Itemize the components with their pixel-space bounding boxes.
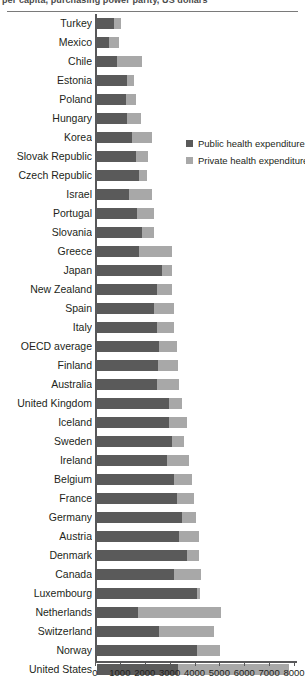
bar-track bbox=[97, 356, 302, 375]
bar-segment-public bbox=[97, 37, 109, 48]
y-axis-spine bbox=[95, 14, 97, 661]
bar-track bbox=[97, 470, 302, 489]
chart-row: Canada bbox=[0, 565, 305, 584]
bar-track bbox=[97, 565, 302, 584]
bar-segment-public bbox=[97, 322, 157, 333]
plot-area: TurkeyMexicoChileEstoniaPolandHungaryKor… bbox=[0, 14, 305, 660]
bar-segment-private bbox=[157, 284, 172, 295]
chart-row: Chile bbox=[0, 52, 305, 71]
bar-segment-public bbox=[97, 113, 127, 124]
category-label: Netherlands bbox=[0, 603, 92, 622]
category-label: Estonia bbox=[0, 71, 92, 90]
bar-segment-private bbox=[157, 379, 179, 390]
bar-segment-private bbox=[117, 56, 142, 67]
page-title: per capita, purchasing power parity, US … bbox=[2, 0, 208, 5]
chart-row: Slovania bbox=[0, 223, 305, 242]
bar-segment-public bbox=[97, 56, 117, 67]
category-label: Japan bbox=[0, 261, 92, 280]
bar-track bbox=[97, 527, 302, 546]
bar-segment-public bbox=[97, 626, 159, 637]
bar-segment-public bbox=[97, 284, 157, 295]
chart-row: Turkey bbox=[0, 14, 305, 33]
bar-segment-private bbox=[129, 189, 151, 200]
category-label: Poland bbox=[0, 90, 92, 109]
bar-track bbox=[97, 223, 302, 242]
x-axis-tick-label: 8000 bbox=[283, 667, 304, 678]
bar-segment-public bbox=[97, 94, 126, 105]
category-label: New Zealand bbox=[0, 280, 92, 299]
legend-label: Public health expenditure bbox=[198, 138, 305, 149]
chart-row: United Kingdom bbox=[0, 394, 305, 413]
bar-segment-private bbox=[159, 626, 214, 637]
bar-track bbox=[97, 622, 302, 641]
bar-segment-private bbox=[169, 417, 186, 428]
category-label: Luxembourg bbox=[0, 584, 92, 603]
bar-segment-public bbox=[97, 341, 159, 352]
x-axis-tick bbox=[195, 661, 196, 666]
chart-row: Spain bbox=[0, 299, 305, 318]
chart-row: Switzerland bbox=[0, 622, 305, 641]
category-label: Norway bbox=[0, 641, 92, 660]
category-label: Finland bbox=[0, 356, 92, 375]
chart-row: Denmark bbox=[0, 546, 305, 565]
category-label: Czech Republic bbox=[0, 166, 92, 185]
bar-segment-private bbox=[174, 474, 191, 485]
bar-segment-public bbox=[97, 170, 139, 181]
legend-item-public: Public health expenditure bbox=[186, 136, 305, 151]
bar-track bbox=[97, 299, 302, 318]
bar-track bbox=[97, 641, 302, 660]
bar-segment-public bbox=[97, 474, 174, 485]
category-label: Hungary bbox=[0, 109, 92, 128]
category-label: United Kingdom bbox=[0, 394, 92, 413]
legend-item-private: Private health expenditure bbox=[186, 153, 305, 168]
chart-row: Ireland bbox=[0, 451, 305, 470]
bar-segment-private bbox=[158, 360, 178, 371]
bar-track bbox=[97, 109, 302, 128]
bar-segment-private bbox=[137, 208, 154, 219]
category-label: Australia bbox=[0, 375, 92, 394]
bar-track bbox=[97, 52, 302, 71]
x-axis-line bbox=[95, 661, 297, 663]
x-axis-tick bbox=[120, 661, 121, 666]
bar-track bbox=[97, 14, 302, 33]
bar-segment-private bbox=[114, 18, 120, 29]
bar-segment-public bbox=[97, 645, 197, 656]
chart-row: OECD average bbox=[0, 337, 305, 356]
category-label: Germany bbox=[0, 508, 92, 527]
chart-row: Hungary bbox=[0, 109, 305, 128]
bar-track bbox=[97, 489, 302, 508]
x-axis-tick bbox=[219, 661, 220, 666]
chart-row: Japan bbox=[0, 261, 305, 280]
bar-segment-public bbox=[97, 360, 158, 371]
bar-segment-public bbox=[97, 151, 136, 162]
x-axis-tick-label: 0 bbox=[92, 667, 97, 678]
category-label: Switzerland bbox=[0, 622, 92, 641]
category-label: OECD average bbox=[0, 337, 92, 356]
bar-segment-private bbox=[126, 94, 136, 105]
bar-segment-private bbox=[179, 531, 199, 542]
bar-segment-private bbox=[174, 569, 201, 580]
x-axis-tick bbox=[244, 661, 245, 666]
bar-segment-public bbox=[97, 132, 132, 143]
x-axis-tick-label: 6000 bbox=[234, 667, 255, 678]
bar-segment-public bbox=[97, 265, 162, 276]
bar-segment-public bbox=[97, 531, 179, 542]
chart-row: Australia bbox=[0, 375, 305, 394]
bar-track bbox=[97, 546, 302, 565]
chart-legend: Public health expenditurePrivate health … bbox=[186, 136, 305, 170]
bar-segment-public bbox=[97, 569, 174, 580]
bar-segment-public bbox=[97, 75, 127, 86]
category-label: Belgium bbox=[0, 470, 92, 489]
x-axis-tick bbox=[170, 661, 171, 666]
bar-track bbox=[97, 90, 302, 109]
bar-segment-private bbox=[132, 132, 152, 143]
bar-track bbox=[97, 451, 302, 470]
x-axis-tick bbox=[269, 661, 270, 666]
bar-track bbox=[97, 432, 302, 451]
bar-track bbox=[97, 318, 302, 337]
bar-track bbox=[97, 337, 302, 356]
bar-segment-public bbox=[97, 227, 142, 238]
bar-segment-private bbox=[136, 151, 148, 162]
bar-segment-public bbox=[97, 455, 167, 466]
x-axis-tick-label: 4000 bbox=[184, 667, 205, 678]
